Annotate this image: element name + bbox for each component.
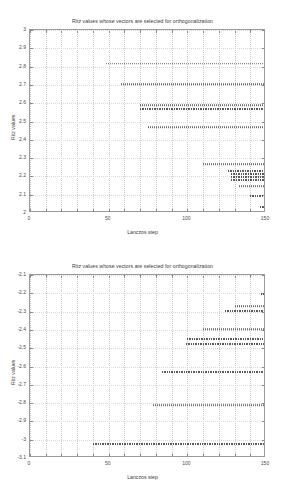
x-axis-tick <box>235 454 236 457</box>
y-tick-label: -2.2 <box>4 289 26 295</box>
x-axis-tick <box>77 454 78 457</box>
gridline-horizontal <box>30 158 264 160</box>
x-tick-label: 50 <box>105 460 111 466</box>
y-tick-label: 2 <box>4 209 26 215</box>
y-axis-tick <box>262 67 265 68</box>
y-axis-tick <box>30 195 33 196</box>
y-tick-label: -3 <box>4 436 26 442</box>
y-axis-tick <box>30 403 33 404</box>
x-axis-label-bottom: Lanczos step <box>0 474 285 480</box>
x-tick-label: 100 <box>182 460 190 466</box>
data-series-line <box>93 443 265 445</box>
y-axis-tick <box>262 421 265 422</box>
x-tick-label: 50 <box>105 215 111 221</box>
gridline-vertical <box>187 30 189 211</box>
x-axis-tick <box>30 454 31 457</box>
y-axis-tick <box>30 330 33 331</box>
data-series-line <box>106 63 265 65</box>
gridline-horizontal <box>30 48 264 50</box>
x-axis-tick <box>140 209 141 212</box>
y-axis-tick <box>262 440 265 441</box>
data-series-line <box>121 83 265 85</box>
x-axis-tick <box>124 454 125 457</box>
data-series-line <box>231 173 265 175</box>
gridline-horizontal <box>30 275 264 277</box>
y-axis-tick <box>262 85 265 86</box>
gridline-vertical <box>93 30 95 211</box>
gridline-horizontal <box>30 195 264 197</box>
y-axis-tick <box>262 30 265 31</box>
data-series-line <box>187 338 265 340</box>
data-series-line <box>186 343 265 345</box>
y-axis-tick <box>30 48 33 49</box>
x-axis-tick <box>172 454 173 457</box>
y-tick-label: 2.1 <box>4 191 26 197</box>
y-tick-label: 3 <box>4 26 26 32</box>
gridline-vertical <box>46 30 48 211</box>
y-axis-tick <box>262 122 265 123</box>
gridline-vertical <box>203 275 205 456</box>
gridline-horizontal <box>30 348 264 350</box>
gridline-vertical <box>219 30 221 211</box>
y-tick-label: -2.7 <box>4 381 26 387</box>
gridline-vertical <box>61 275 63 456</box>
gridline-horizontal <box>30 140 264 142</box>
gridline-vertical <box>140 275 142 456</box>
y-tick-label: 2.8 <box>4 63 26 69</box>
data-series-line <box>153 404 265 406</box>
y-tick-label: -2.1 <box>4 271 26 277</box>
y-axis-tick <box>30 158 33 159</box>
x-axis-tick <box>61 454 62 457</box>
chart-title-top: Ritz values whose vectors are selected f… <box>0 18 285 24</box>
y-axis-tick <box>30 421 33 422</box>
data-series-line <box>235 306 265 308</box>
gridline-vertical <box>93 275 95 456</box>
x-axis-tick <box>93 209 94 212</box>
x-axis-tick <box>46 454 47 457</box>
data-series-line <box>261 293 265 295</box>
x-axis-tick <box>250 209 251 212</box>
y-tick-label: -2.3 <box>4 308 26 314</box>
chart-title-bottom: Ritz values whose vectors are selected f… <box>0 263 285 269</box>
y-axis-tick <box>30 122 33 123</box>
gridline-vertical <box>61 30 63 211</box>
y-tick-label: -2.4 <box>4 326 26 332</box>
figure-bottom-chart: Ritz values whose vectors are selected f… <box>0 245 285 490</box>
gridline-vertical <box>77 30 79 211</box>
y-tick-label: 2.3 <box>4 154 26 160</box>
y-axis-tick <box>30 348 33 349</box>
gridline-vertical <box>172 30 174 211</box>
gridline-horizontal <box>30 312 264 314</box>
gridline-vertical <box>156 30 158 211</box>
x-axis-tick <box>172 209 173 212</box>
gridline-horizontal <box>30 330 264 332</box>
gridline-horizontal <box>30 85 264 87</box>
y-axis-tick <box>30 275 33 276</box>
gridline-horizontal <box>30 30 264 32</box>
y-axis-tick <box>30 30 33 31</box>
y-axis-tick <box>30 440 33 441</box>
data-series-line <box>140 105 265 107</box>
y-axis-tick <box>30 293 33 294</box>
y-axis-tick <box>30 367 33 368</box>
y-axis-tick <box>30 67 33 68</box>
gridline-vertical <box>124 275 126 456</box>
y-tick-label: 2.9 <box>4 44 26 50</box>
y-axis-tick <box>30 385 33 386</box>
x-axis-label-top: Lanczos step <box>0 229 285 235</box>
x-axis-tick <box>124 209 125 212</box>
gridline-vertical <box>109 275 111 456</box>
x-axis-tick <box>109 209 110 212</box>
x-axis-tick <box>46 209 47 212</box>
gridline-vertical <box>235 30 237 211</box>
y-tick-label: -2.5 <box>4 344 26 350</box>
x-axis-tick <box>187 454 188 457</box>
data-series-line <box>250 195 265 197</box>
y-axis-tick <box>30 140 33 141</box>
data-series-line <box>148 126 265 128</box>
x-tick-label: 100 <box>182 215 190 221</box>
y-axis-tick <box>262 275 265 276</box>
gridline-vertical <box>187 275 189 456</box>
gridline-vertical <box>219 275 221 456</box>
gridline-horizontal <box>30 367 264 369</box>
